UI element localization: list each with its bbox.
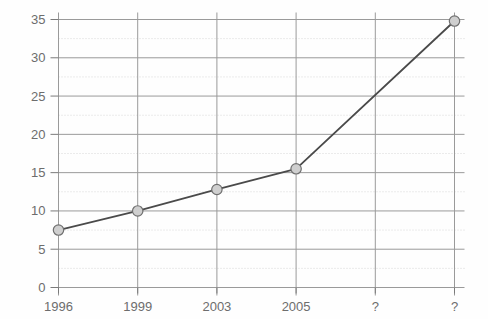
data-point-marker [449, 16, 459, 26]
y-tick-label: 10 [31, 204, 45, 217]
data-point-marker [212, 184, 222, 194]
data-point-marker [291, 164, 301, 174]
y-tick-label: 15 [31, 166, 45, 179]
y-tick-label: 0 [38, 281, 45, 294]
data-point-marker [133, 206, 143, 216]
y-tick-label: 35 [31, 13, 45, 26]
x-tick-label: 2005 [256, 300, 336, 313]
x-axis-tickmarks [59, 288, 455, 294]
minor-gridlines [59, 39, 465, 269]
x-tick-label: 1996 [19, 300, 99, 313]
x-tick-label: 2003 [177, 300, 257, 313]
data-line-series [59, 21, 455, 230]
y-tick-label: 25 [31, 90, 45, 103]
series-polyline [59, 21, 455, 230]
data-point-marker [53, 225, 63, 235]
x-tick-label: 1999 [98, 300, 178, 313]
data-point-markers [53, 16, 459, 235]
chart-plot-area [0, 0, 488, 319]
y-tick-label: 5 [38, 243, 45, 256]
y-tick-label: 30 [31, 51, 45, 64]
x-tick-label: ? [335, 300, 415, 313]
y-tick-label: 20 [31, 128, 45, 141]
x-tick-label: ? [415, 300, 488, 313]
y-axis-tickmarks [51, 20, 59, 288]
line-chart: 35302520151050 1996199920032005?? [0, 0, 488, 319]
